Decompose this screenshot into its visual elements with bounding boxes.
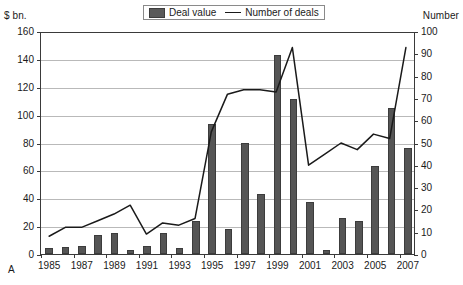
y-axis-left-tick-label: 0	[28, 250, 34, 260]
y-tick-right	[414, 210, 418, 211]
x-tick	[171, 254, 172, 258]
x-axis-tick-label: 1987	[71, 261, 93, 271]
x-axis-tick-label: 1997	[234, 261, 256, 271]
figure-panel-label: A	[8, 264, 15, 275]
y-tick-right	[414, 188, 418, 189]
x-axis-tick-label: 1999	[266, 261, 288, 271]
x-tick	[139, 254, 140, 258]
y-tick-right	[414, 54, 418, 55]
x-tick	[237, 254, 238, 258]
x-tick	[400, 254, 401, 258]
legend-line-swatch-icon	[225, 12, 241, 13]
x-axis-tick-label: 2005	[364, 261, 386, 271]
chart-container: $ bn. Number Deal value Number of deals …	[0, 0, 463, 285]
line-series-number-of-deals	[41, 32, 414, 254]
x-axis-tick-label: 1993	[168, 261, 190, 271]
y-axis-right-tick-label: 10	[421, 228, 432, 238]
y-tick-right	[414, 32, 418, 33]
legend-item-deal-value: Deal value	[149, 7, 216, 18]
x-tick	[106, 254, 107, 258]
chart-legend: Deal value Number of deals	[143, 5, 325, 20]
y-axis-left-tick-label: 140	[17, 55, 34, 65]
y-axis-left-tick-label: 40	[23, 194, 34, 204]
x-axis-tick-label: 2003	[332, 261, 354, 271]
y-tick-right	[414, 255, 418, 256]
y-axis-left-tick-label: 80	[23, 139, 34, 149]
y-axis-right-tick-label: 70	[421, 94, 432, 104]
x-tick	[302, 254, 303, 258]
y-tick-right	[414, 144, 418, 145]
y-axis-right-tick-label: 40	[421, 161, 432, 171]
y-axis-right-tick-label: 90	[421, 49, 432, 59]
y-axis-left-tick-label: 100	[17, 111, 34, 121]
legend-bar-swatch-icon	[149, 8, 165, 18]
y-axis-right-tick-label: 20	[421, 205, 432, 215]
x-axis-tick-label: 2007	[397, 261, 419, 271]
x-axis-tick-label: 1991	[136, 261, 158, 271]
y-tick-right	[414, 99, 418, 100]
y-tick-right	[414, 121, 418, 122]
x-tick	[74, 254, 75, 258]
y-tick-right	[414, 77, 418, 78]
x-tick	[367, 254, 368, 258]
y-axis-right-title: Number	[423, 10, 459, 21]
y-axis-right-tick-label: 0	[421, 250, 427, 260]
y-axis-left-tick-label: 120	[17, 83, 34, 93]
legend-label-deal-value: Deal value	[169, 7, 216, 18]
y-axis-right-tick-label: 50	[421, 139, 432, 149]
y-axis-left-tick-label: 160	[17, 27, 34, 37]
y-axis-right-tick-label: 30	[421, 183, 432, 193]
y-tick-right	[414, 166, 418, 167]
y-tick-right	[414, 233, 418, 234]
x-tick	[269, 254, 270, 258]
legend-item-number-of-deals: Number of deals	[225, 7, 318, 18]
y-axis-left-title: $ bn.	[4, 10, 27, 21]
x-tick	[41, 254, 42, 258]
y-axis-left-tick-label: 20	[23, 222, 34, 232]
y-axis-right-tick-label: 60	[421, 116, 432, 126]
x-tick	[204, 254, 205, 258]
plot-area: 020406080100120140160 010203040506070809…	[40, 32, 415, 255]
x-axis-tick-label: 1995	[201, 261, 223, 271]
y-axis-right-tick-label: 100	[421, 27, 438, 37]
y-axis-left-tick-label: 60	[23, 166, 34, 176]
x-axis-tick-label: 2001	[299, 261, 321, 271]
x-tick	[334, 254, 335, 258]
x-axis-tick-label: 1989	[103, 261, 125, 271]
x-axis-tick-label: 1985	[38, 261, 60, 271]
y-axis-right-tick-label: 80	[421, 72, 432, 82]
legend-label-number-of-deals: Number of deals	[245, 7, 318, 18]
